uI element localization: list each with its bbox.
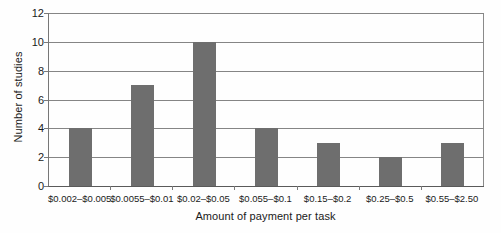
bar bbox=[255, 128, 278, 186]
y-axis-tick-label: 10 bbox=[22, 37, 44, 48]
gridline bbox=[49, 42, 484, 43]
y-axis-tick-label: 0 bbox=[22, 181, 44, 192]
x-axis-tick-label: $0.25–$0.5 bbox=[359, 193, 421, 205]
x-axis-tick-mark bbox=[172, 186, 173, 190]
bar bbox=[317, 143, 340, 186]
bar-chart-figure: Number of studies 024681012 $0.002–$0.00… bbox=[0, 0, 501, 233]
gridline bbox=[49, 100, 484, 101]
x-axis-title: Amount of payment per task bbox=[48, 209, 483, 223]
y-axis-tick-label: 2 bbox=[22, 152, 44, 163]
x-axis-tick-label: $0.0055–$0.01 bbox=[110, 193, 172, 205]
x-axis-tick-label: $0.002–$0.005 bbox=[48, 193, 110, 205]
y-axis-tick-label: 6 bbox=[22, 95, 44, 106]
gridline bbox=[49, 13, 484, 14]
y-axis-tick-labels: 024681012 bbox=[22, 0, 44, 233]
x-axis-tick-mark bbox=[421, 186, 422, 190]
x-axis-tick-mark bbox=[359, 186, 360, 190]
bar bbox=[441, 143, 464, 186]
x-axis-tick-label: $0.02–$0.05 bbox=[172, 193, 234, 205]
bar bbox=[379, 157, 402, 186]
y-axis-tick-label: 4 bbox=[22, 123, 44, 134]
x-axis-tick-mark bbox=[110, 186, 111, 190]
x-axis-tick-mark bbox=[234, 186, 235, 190]
x-axis-tick-label: $0.055–$0.1 bbox=[234, 193, 296, 205]
bar bbox=[69, 128, 92, 186]
bar bbox=[131, 85, 154, 186]
gridline bbox=[49, 71, 484, 72]
bar bbox=[193, 42, 216, 186]
y-axis-tick-label: 12 bbox=[22, 8, 44, 19]
x-axis-tick-label: $0.55–$2.50 bbox=[421, 193, 483, 205]
y-axis-tick-label: 8 bbox=[22, 66, 44, 77]
plot-area bbox=[48, 13, 484, 187]
x-axis-tick-mark bbox=[297, 186, 298, 190]
x-axis-tick-label: $0.15–$0.2 bbox=[297, 193, 359, 205]
x-axis-tick-labels: $0.002–$0.005$0.0055–$0.01$0.02–$0.05$0.… bbox=[48, 193, 483, 209]
